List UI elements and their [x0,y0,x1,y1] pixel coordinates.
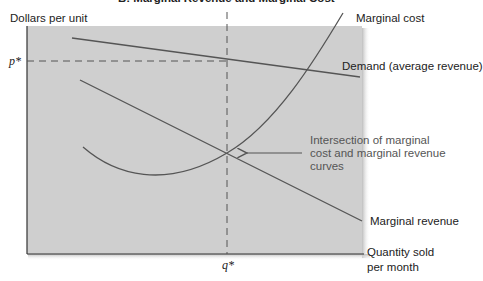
x-axis-label-line2: per month [367,260,419,274]
x-axis-label-line1: Quantity sold [367,245,434,259]
marginal-revenue-label: Marginal revenue [370,214,459,228]
y-axis-label: Dollars per unit [10,11,87,25]
figure-title: B: Marginal Revenue and Marginal Cost [118,0,335,4]
marginal-cost-label: Marginal cost [356,11,424,25]
demand-label: Demand (average revenue) [342,59,483,73]
plot-shadow-bottom [28,254,370,260]
p-star-label: p* [9,54,21,68]
annotation-line1: Intersection of marginal [310,133,430,147]
annotation-line2: cost and marginal revenue [310,146,446,160]
annotation-line3: curves [310,159,344,173]
q-star-label: q* [222,258,234,272]
